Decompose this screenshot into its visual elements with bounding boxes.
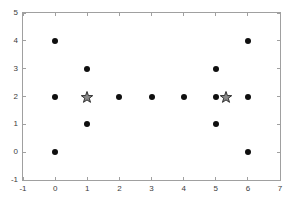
x-tick-mark [87,13,88,16]
data-point [84,66,90,72]
y-tick-label: 4 [0,37,18,45]
x-tick-mark [87,177,88,180]
y-tick-mark [23,68,26,69]
star-marker [218,89,234,105]
data-point [245,94,251,100]
x-tick-mark [215,13,216,16]
star-marker [79,89,95,105]
y-tick-label: 3 [0,65,18,73]
x-tick-label: 7 [268,185,290,193]
y-tick-mark [23,124,26,125]
x-tick-mark [55,177,56,180]
x-tick-mark [183,177,184,180]
x-tick-label: 4 [172,185,196,193]
y-tick-mark [277,68,280,69]
scatter-plot-figure: -101234567-1012345 [0,0,290,198]
y-tick-mark [277,152,280,153]
x-tick-mark [119,13,120,16]
x-tick-mark [183,13,184,16]
x-tick-label: 3 [140,185,164,193]
plot-area [22,12,281,181]
y-tick-mark [23,180,26,181]
x-tick-mark [151,177,152,180]
y-tick-mark [277,96,280,97]
x-tick-label: 5 [204,185,228,193]
data-point [52,38,58,44]
x-tick-mark [55,13,56,16]
data-point [245,149,251,155]
x-tick-label: -1 [11,185,35,193]
y-tick-label: 2 [0,93,18,101]
data-point [181,94,187,100]
x-tick-mark [247,177,248,180]
data-point [52,149,58,155]
data-point [84,121,90,127]
y-tick-mark [277,40,280,41]
data-point [52,94,58,100]
data-point [149,94,155,100]
data-point [116,94,122,100]
x-tick-mark [247,13,248,16]
y-tick-mark [23,152,26,153]
y-tick-mark [277,180,280,181]
y-tick-label: 1 [0,120,18,128]
y-tick-mark [23,40,26,41]
x-tick-label: 2 [107,185,131,193]
y-tick-mark [277,124,280,125]
y-tick-mark [23,13,26,14]
y-tick-label: 5 [0,9,18,17]
y-tick-mark [23,96,26,97]
x-tick-mark [119,177,120,180]
data-point [213,121,219,127]
data-point [245,38,251,44]
y-tick-label: 0 [0,148,18,156]
y-tick-label: -1 [0,176,18,184]
x-tick-label: 0 [43,185,67,193]
x-tick-label: 1 [75,185,99,193]
y-tick-mark [277,13,280,14]
x-tick-label: 6 [236,185,260,193]
x-tick-mark [151,13,152,16]
x-tick-mark [215,177,216,180]
data-point [213,66,219,72]
